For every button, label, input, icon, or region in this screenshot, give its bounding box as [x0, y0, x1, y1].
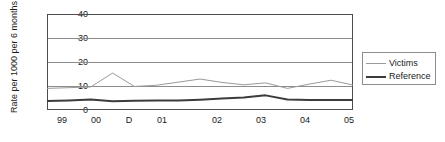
x-tick-label-02: 02	[202, 116, 232, 125]
x-tick-label-03: 03	[246, 116, 276, 125]
line-chart: Rate per 1000 per 6 months 40 30 20 10 0…	[0, 0, 445, 142]
x-tick-label-00: 00	[81, 116, 111, 125]
plot-svg	[47, 14, 353, 110]
x-tick-label-01: 01	[147, 116, 177, 125]
legend: Victims Reference	[362, 52, 436, 85]
x-tick-label-D: D	[114, 116, 144, 125]
legend-label-victims: Victims	[389, 58, 418, 68]
legend-label-reference: Reference	[389, 71, 431, 81]
x-tick-label-04: 04	[290, 116, 320, 125]
plot-area	[47, 14, 353, 110]
x-tick-label-99: 99	[47, 116, 77, 125]
legend-item-reference[interactable]: Reference	[366, 69, 432, 82]
series-line-reference	[47, 95, 353, 101]
x-tick-label-05: 05	[334, 116, 364, 125]
data-series	[47, 73, 353, 101]
y-axis-title: Rate per 1000 per 6 months	[9, 0, 19, 117]
legend-item-victims[interactable]: Victims	[366, 56, 432, 69]
